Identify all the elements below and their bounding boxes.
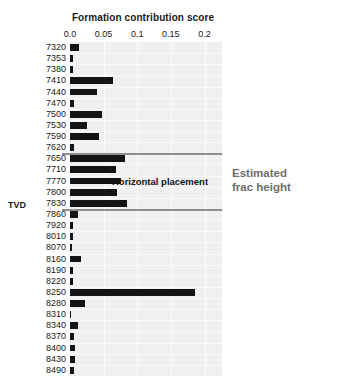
bar-7920 (70, 222, 73, 229)
y-tick-label-8160: 8160 (26, 254, 66, 265)
chart-row: 8220 (0, 276, 344, 287)
chart-row: 8190 (0, 265, 344, 276)
bar-7353 (70, 55, 73, 62)
bar-8220 (70, 278, 73, 285)
estimated-frac-height-label-line2: frac height (232, 180, 291, 194)
y-tick-label-8340: 8340 (26, 320, 66, 331)
bar-8430 (70, 356, 75, 363)
bar-8400 (70, 345, 75, 352)
chart-row: 7920 (0, 220, 344, 231)
chart-row: 7410 (0, 75, 344, 86)
horizontal-placement-label: Horizontal placement (112, 176, 208, 187)
frac-height-line-bottom (62, 209, 222, 211)
chart-row: 7800 (0, 187, 344, 198)
y-tick-label-7650: 7650 (26, 153, 66, 164)
y-tick-label-7710: 7710 (26, 164, 66, 175)
bar-7710 (70, 166, 116, 173)
bar-7590 (70, 133, 99, 140)
bar-7530 (70, 122, 87, 129)
bar-8250 (70, 289, 195, 296)
chart-row: 7710 (0, 164, 344, 175)
y-tick-label-8250: 8250 (26, 287, 66, 298)
estimated-frac-height-label-line1: Estimated (232, 166, 287, 180)
bar-8070 (70, 244, 72, 251)
y-tick-label-7770: 7770 (26, 176, 66, 187)
chart-row: 7500 (0, 109, 344, 120)
chart-row: 7353 (0, 53, 344, 64)
y-tick-label-8220: 8220 (26, 276, 66, 287)
bar-7860 (70, 211, 78, 218)
bar-8280 (70, 300, 85, 307)
chart-row: 7650 (0, 153, 344, 164)
bar-8160 (70, 256, 81, 263)
chart-row: 7440 (0, 87, 344, 98)
y-tick-label-7470: 7470 (26, 98, 66, 109)
chart-row: 8280 (0, 298, 344, 309)
bar-8010 (70, 233, 73, 240)
bar-7620 (70, 144, 74, 151)
chart-row: 8250 (0, 287, 344, 298)
bar-8190 (70, 267, 73, 274)
y-axis-title: TVD (8, 200, 26, 210)
y-tick-label-7590: 7590 (26, 131, 66, 142)
y-tick-label-8010: 8010 (26, 231, 66, 242)
y-tick-label-7380: 7380 (26, 64, 66, 75)
chart-root: Formation contribution score 0.00.050.10… (0, 0, 344, 385)
chart-row: 7830 (0, 198, 344, 209)
bar-7470 (70, 100, 74, 107)
y-tick-label-7620: 7620 (26, 142, 66, 153)
y-tick-label-8490: 8490 (26, 365, 66, 376)
chart-row: 7860 (0, 209, 344, 220)
chart-row: 8010 (0, 231, 344, 242)
y-tick-label-8310: 8310 (26, 309, 66, 320)
bar-7500 (70, 111, 102, 118)
chart-row: 7530 (0, 120, 344, 131)
chart-row: 7380 (0, 64, 344, 75)
chart-row: 8400 (0, 343, 344, 354)
y-tick-label-8070: 8070 (26, 242, 66, 253)
y-tick-label-7440: 7440 (26, 87, 66, 98)
chart-row: 7470 (0, 98, 344, 109)
bar-8340 (70, 322, 78, 329)
bar-7380 (70, 66, 73, 73)
y-tick-label-8400: 8400 (26, 343, 66, 354)
y-tick-label-8280: 8280 (26, 298, 66, 309)
bar-8310 (70, 311, 71, 318)
y-tick-label-7320: 7320 (26, 42, 66, 53)
chart-row: 8310 (0, 309, 344, 320)
y-tick-label-7530: 7530 (26, 120, 66, 131)
chart-row: 8160 (0, 254, 344, 265)
chart-row: 8490 (0, 365, 344, 376)
bar-7440 (70, 89, 97, 96)
chart-row: 7320 (0, 42, 344, 53)
chart-row: 8070 (0, 242, 344, 253)
bar-7320 (70, 44, 79, 51)
bar-7650 (70, 155, 125, 162)
y-tick-label-7500: 7500 (26, 109, 66, 120)
y-tick-label-7860: 7860 (26, 209, 66, 220)
y-tick-label-7830: 7830 (26, 198, 66, 209)
y-tick-label-8190: 8190 (26, 265, 66, 276)
frac-height-line-top (62, 153, 222, 155)
y-tick-label-7410: 7410 (26, 75, 66, 86)
y-tick-label-8370: 8370 (26, 331, 66, 342)
bar-7410 (70, 77, 113, 84)
y-tick-label-7800: 7800 (26, 187, 66, 198)
y-tick-label-7920: 7920 (26, 220, 66, 231)
bar-7830 (70, 200, 127, 207)
chart-row: 7590 (0, 131, 344, 142)
chart-row: 7620 (0, 142, 344, 153)
chart-row: 8430 (0, 354, 344, 365)
y-tick-label-7353: 7353 (26, 53, 66, 64)
bar-7800 (70, 189, 117, 196)
chart-row: 8370 (0, 331, 344, 342)
bar-8370 (70, 333, 74, 340)
chart-row: 8340 (0, 320, 344, 331)
bar-rows: 7320735373807410744074707500753075907620… (0, 0, 344, 385)
y-tick-label-8430: 8430 (26, 354, 66, 365)
bar-8490 (70, 367, 74, 374)
